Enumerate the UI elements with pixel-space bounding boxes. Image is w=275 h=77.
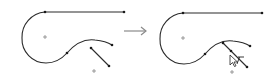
short-segment <box>91 48 109 66</box>
s-curve <box>67 40 112 53</box>
endpoint <box>111 44 114 47</box>
diagram-canvas <box>0 0 275 77</box>
center-mark <box>230 70 234 74</box>
panel-before <box>22 11 125 73</box>
intersection-point <box>222 42 225 45</box>
endpoint <box>204 53 207 56</box>
endpoint <box>261 12 264 15</box>
panel-after <box>160 12 263 74</box>
center-mark <box>181 36 185 40</box>
endpoint <box>249 45 252 48</box>
endpoint <box>44 11 47 14</box>
center-mark <box>43 35 47 39</box>
endpoint <box>108 65 111 68</box>
endpoint <box>66 52 69 55</box>
endpoint <box>123 11 126 14</box>
endpoint <box>90 47 93 50</box>
big-arc <box>160 13 205 64</box>
diagram-stage <box>0 0 275 77</box>
endpoint <box>230 50 233 53</box>
big-arc <box>22 12 67 63</box>
center-mark <box>92 69 96 73</box>
endpoint <box>246 66 249 69</box>
endpoint <box>182 12 185 15</box>
right-arrow-icon <box>124 27 146 35</box>
